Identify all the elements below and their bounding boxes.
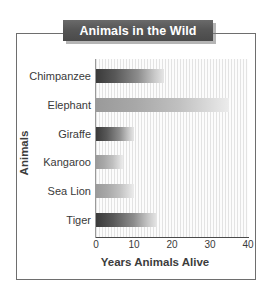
x-tick-label: 20 <box>166 239 177 250</box>
category-label: Sea Lion <box>30 177 94 206</box>
category-label: Kangaroo <box>30 148 94 177</box>
x-axis-title: Years Animals Alive <box>60 256 250 268</box>
bar-row <box>96 177 248 206</box>
chart-title: Animals in the Wild <box>79 24 196 38</box>
bar-sea-lion <box>96 184 134 198</box>
bar-elephant <box>96 98 229 112</box>
bar-row <box>96 119 248 148</box>
bar-row <box>96 205 248 234</box>
y-axis-title-text: Animals <box>18 131 30 176</box>
category-label: Giraffe <box>30 119 94 148</box>
category-label: Chimpanzee <box>30 62 94 91</box>
bar-tiger <box>96 213 157 227</box>
bar-chimpanzee <box>96 69 164 83</box>
category-label: Elephant <box>30 91 94 120</box>
bar-row <box>96 62 248 91</box>
category-label-list: ChimpanzeeElephantGiraffeKangarooSea Lio… <box>30 62 94 234</box>
x-tick-label-list: 010203040 <box>96 239 248 253</box>
chart-figure: Animals in the Wild Animals ChimpanzeeEl… <box>0 0 272 290</box>
bar-giraffe <box>96 127 134 141</box>
bars-layer <box>96 62 248 234</box>
chart-title-banner: Animals in the Wild <box>63 20 213 41</box>
x-tick-label: 40 <box>242 239 253 250</box>
x-tick-label: 30 <box>204 239 215 250</box>
x-tick-label: 0 <box>93 239 99 250</box>
category-label: Tiger <box>30 205 94 234</box>
bar-kangaroo <box>96 155 123 169</box>
bar-row <box>96 91 248 120</box>
bar-row <box>96 148 248 177</box>
x-tick-label: 10 <box>128 239 139 250</box>
y-axis-line <box>95 59 96 238</box>
